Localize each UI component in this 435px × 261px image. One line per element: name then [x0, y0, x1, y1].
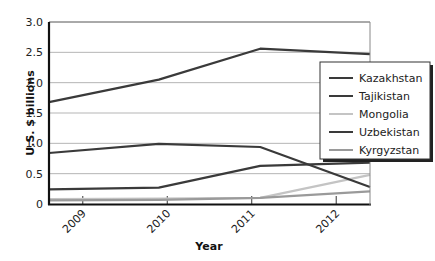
x-axis-title: Year: [194, 240, 223, 253]
x-tick-label: 2009: [60, 207, 89, 236]
series-line-mongolia: [49, 175, 370, 199]
x-tick-label: 2011: [229, 207, 258, 236]
y-tick-label: 0.5: [26, 168, 44, 181]
legend-label: Mongolia: [359, 108, 409, 121]
legend-label: Tajikistan: [358, 90, 410, 103]
legend-label: Kazakhstan: [359, 72, 422, 85]
legend-label: Uzbekistan: [359, 126, 420, 139]
x-tick-label: 2012: [313, 207, 342, 236]
legend-label: Kyrgyzstan: [359, 144, 419, 157]
line-chart: 00.51.01.52.02.53.0 2009201020112012 U.S…: [0, 0, 435, 261]
legend: KazakhstanTajikistanMongoliaUzbekistanKy…: [320, 62, 433, 162]
y-tick-label: 0: [36, 198, 43, 211]
y-tick-label: 2.5: [26, 46, 44, 59]
y-tick-label: 3.0: [26, 16, 44, 29]
y-axis-title: U.S. $ billions: [24, 70, 37, 156]
x-tick-label: 2010: [144, 207, 173, 236]
x-axis-ticks: 2009201020112012: [60, 196, 342, 236]
